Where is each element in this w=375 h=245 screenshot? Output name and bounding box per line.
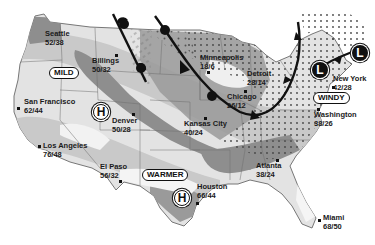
city-temps: 38/26 [314, 120, 357, 129]
city-temps: 68/50 [323, 223, 344, 232]
city-chicago: Chicago 26/12 [227, 93, 257, 110]
condition-label-warmer: WARMER [142, 169, 188, 181]
city-temps: 52/38 [45, 39, 70, 48]
city-temps: 40/24 [184, 129, 227, 138]
city-marker [204, 117, 207, 120]
city-temps: 50/32 [92, 66, 119, 75]
city-marker [332, 86, 335, 89]
city-temps: 42/28 [333, 84, 367, 93]
condition-label-mild: MILD [49, 67, 79, 79]
low-pressure-northeast: L [352, 45, 368, 61]
city-houston: Houston 66/44 [197, 183, 227, 200]
condition-label-windy: WINDY [313, 92, 350, 104]
city-marker [318, 219, 321, 222]
city-marker [17, 107, 20, 110]
city-temps: 56/32 [100, 172, 127, 181]
weather-map: MILD WARMER WINDY H H L L Seattle 52/38 … [0, 0, 375, 245]
city-temps: 62/44 [24, 107, 75, 116]
city-kansas-city: Kansas City 40/24 [184, 120, 227, 137]
city-miami: Miami 68/50 [323, 214, 344, 231]
city-temps: 38/24 [256, 171, 281, 180]
city-washington: Washington 38/26 [314, 111, 357, 128]
city-temps: 66/44 [197, 192, 227, 201]
city-billings: Billings 50/32 [92, 57, 119, 74]
city-marker [132, 113, 135, 116]
city-marker [276, 159, 279, 162]
city-marker [244, 90, 247, 93]
city-temps: 28/14 [247, 79, 271, 88]
city-los-angeles: Los Angeles 76/48 [43, 142, 87, 159]
city-marker [38, 145, 41, 148]
city-marker [317, 108, 320, 111]
city-denver: Denver 50/28 [112, 117, 137, 134]
city-san-francisco: San Francisco 62/44 [24, 98, 75, 115]
low-pressure-east: L [312, 62, 328, 78]
city-temps: 26/12 [227, 102, 257, 111]
city-new-york: New York 42/28 [333, 75, 367, 92]
city-el-paso: El Paso 56/32 [100, 163, 127, 180]
city-marker [207, 71, 210, 74]
city-marker [119, 180, 122, 183]
city-seattle: Seattle 52/38 [45, 30, 70, 47]
city-temps: 18/6 [200, 63, 243, 72]
high-pressure-south: H [174, 190, 190, 206]
city-marker [196, 202, 199, 205]
high-pressure-west: H [93, 104, 109, 120]
city-temps: 50/28 [112, 126, 137, 135]
city-detroit: Detroit 28/14 [247, 70, 271, 87]
city-temps: 76/48 [43, 151, 87, 160]
city-minneapolis: Minneapolis 18/6 [200, 54, 243, 71]
city-atlanta: Atlanta 38/24 [256, 162, 281, 179]
city-marker [115, 54, 118, 57]
